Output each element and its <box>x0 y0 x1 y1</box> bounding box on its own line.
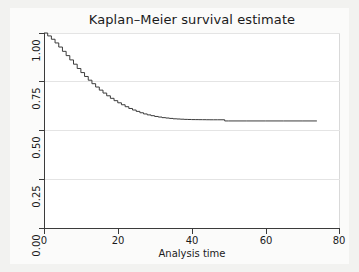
chart-figure: Kaplan–Meier survival estimate 1.00 0.75… <box>0 0 359 272</box>
plot-frame-right <box>339 33 340 229</box>
y-tick-label-050: 0.50 <box>31 131 42 165</box>
x-tick-label-0: 0 <box>32 235 56 246</box>
x-tick-label-60: 60 <box>254 235 278 246</box>
x-tick-mark-80 <box>339 229 340 234</box>
gridline-y-075 <box>44 81 340 82</box>
y-tick-label-100: 1.00 <box>31 34 42 68</box>
x-axis-title: Analysis time <box>44 248 340 259</box>
y-tick-label-025: 0.25 <box>31 180 42 214</box>
y-tick-label-075: 0.75 <box>31 82 42 116</box>
x-tick-mark-60 <box>266 229 267 234</box>
x-tick-label-80: 80 <box>327 235 351 246</box>
page-title: Kaplan–Meier survival estimate <box>44 12 340 27</box>
gridline-y-025 <box>44 179 340 180</box>
x-tick-mark-20 <box>118 229 119 234</box>
gridline-y-100 <box>44 33 340 34</box>
x-tick-label-20: 20 <box>106 235 130 246</box>
x-tick-mark-40 <box>192 229 193 234</box>
x-tick-label-40: 40 <box>180 235 204 246</box>
y-axis-line <box>44 33 45 229</box>
gridline-y-050 <box>44 130 340 131</box>
x-tick-mark-0 <box>44 229 45 234</box>
